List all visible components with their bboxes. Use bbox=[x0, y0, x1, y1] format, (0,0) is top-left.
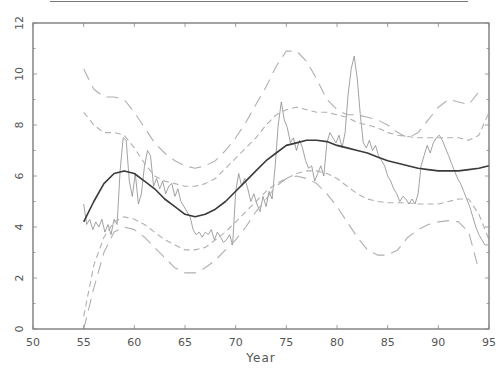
chart: 50556065707580859095 024681012 Year bbox=[0, 0, 498, 376]
x-tick-label: 55 bbox=[77, 336, 91, 349]
x-tick-label: 85 bbox=[381, 336, 395, 349]
series-observed bbox=[84, 56, 488, 245]
y-tick-label: 2 bbox=[13, 275, 26, 282]
series-upper-outer-band bbox=[84, 51, 479, 168]
ticks-layer bbox=[33, 23, 489, 329]
x-tick-label: 70 bbox=[229, 336, 243, 349]
y-tick-label: 4 bbox=[13, 224, 26, 231]
x-tick-label: 60 bbox=[127, 336, 141, 349]
x-tick-labels: 50556065707580859095 bbox=[26, 336, 496, 349]
x-tick-label: 75 bbox=[279, 336, 293, 349]
y-tick-label: 0 bbox=[13, 326, 26, 333]
series-smooth-fit bbox=[84, 140, 489, 222]
y-tick-label: 8 bbox=[13, 122, 26, 129]
x-axis-title: Year bbox=[245, 351, 275, 365]
x-tick-label: 95 bbox=[482, 336, 496, 349]
y-tick-label: 10 bbox=[13, 67, 26, 81]
y-tick-label: 6 bbox=[13, 173, 26, 180]
x-tick-label: 50 bbox=[26, 336, 40, 349]
x-tick-label: 65 bbox=[178, 336, 192, 349]
series-lower-outer-band bbox=[84, 176, 479, 329]
x-tick-label: 90 bbox=[431, 336, 445, 349]
y-tick-labels: 024681012 bbox=[13, 16, 26, 333]
plot-frame bbox=[33, 23, 489, 329]
series-layer bbox=[84, 51, 489, 329]
series-lower-inner-band bbox=[84, 171, 489, 316]
x-tick-label: 80 bbox=[330, 336, 344, 349]
y-tick-label: 12 bbox=[13, 16, 26, 30]
